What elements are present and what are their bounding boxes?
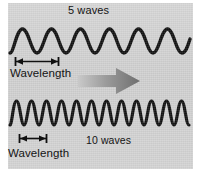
wavelength-label-bottom: Wavelength xyxy=(8,148,69,160)
wavelength-diagram: 5 waves Wavelength xyxy=(0,0,198,170)
wavelength-label-top: Wavelength xyxy=(10,68,71,80)
wavelength-measure-top xyxy=(14,56,60,67)
top-wave-count-label: 5 waves xyxy=(68,5,109,16)
wavelength-measure-bottom xyxy=(18,133,48,144)
bottom-wave-count-label: 10 waves xyxy=(86,135,131,146)
wave-bottom xyxy=(8,91,193,137)
direction-arrow-icon xyxy=(76,66,142,96)
